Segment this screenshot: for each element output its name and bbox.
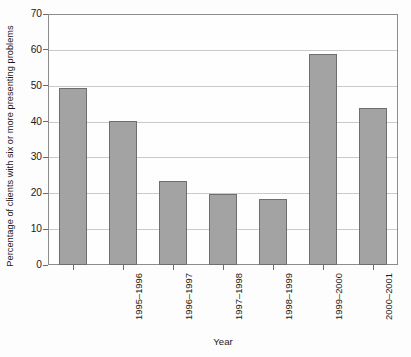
bar	[159, 181, 187, 265]
bar	[209, 194, 237, 265]
bars-group	[48, 14, 398, 265]
y-tick-label: 20	[8, 188, 42, 198]
y-tick-label: 40	[8, 117, 42, 127]
y-tick-label: 30	[8, 152, 42, 162]
y-tick-label: 60	[8, 45, 42, 55]
bar-chart: Percentage of clients with six or more p…	[0, 0, 411, 357]
x-tick-label: 2000–2001	[382, 273, 396, 339]
x-tick-label: 1995–1996	[132, 273, 146, 339]
x-tick-label: 1997–1998	[232, 273, 246, 339]
bar	[59, 88, 87, 265]
x-axis-title: Year	[48, 336, 398, 347]
bar	[259, 199, 287, 265]
y-axis-ticks: 010203040506070	[0, 14, 42, 265]
x-tick-label: 1998–1999	[282, 273, 296, 339]
y-tick-label: 70	[8, 9, 42, 19]
x-tick-label: 1996–1997	[182, 273, 196, 339]
bar	[359, 108, 387, 265]
bar	[309, 54, 337, 265]
x-tick-label: 1999–2000	[332, 273, 346, 339]
y-tick-label: 0	[8, 260, 42, 270]
y-tick-label: 10	[8, 224, 42, 234]
bar	[109, 121, 137, 266]
x-axis-tick-labels: 1995–19961996–19971997–19981998–19991999…	[48, 265, 398, 335]
y-tick-label: 50	[8, 81, 42, 91]
